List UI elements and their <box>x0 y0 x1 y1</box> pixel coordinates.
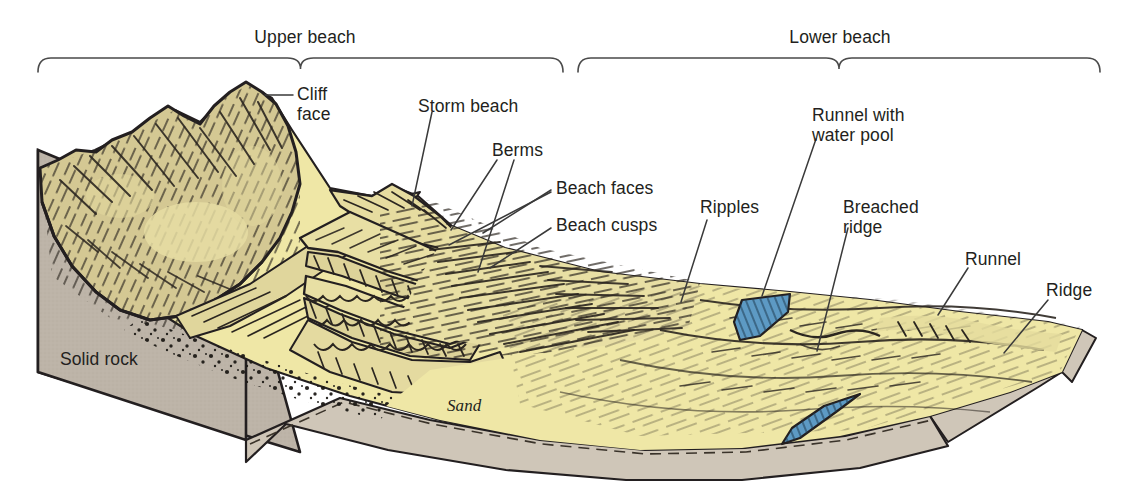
beach-faces-leader-a <box>483 190 551 233</box>
upper-beach-bracket <box>38 58 563 72</box>
scope-brackets <box>38 58 1100 72</box>
upper-beach-label: Upper beach <box>215 27 395 47</box>
sand-label: Sand <box>447 396 481 416</box>
ripples-label: Ripples <box>700 197 759 217</box>
runnel-label: Runnel <box>965 249 1021 269</box>
storm-beach-label: Storm beach <box>418 96 518 116</box>
cliff-face-label: Cliff face <box>297 84 330 124</box>
runnel-pool-leader <box>762 139 816 296</box>
lower-beach-label: Lower beach <box>750 27 930 47</box>
block-diagram-artwork <box>0 0 1130 502</box>
solid-rock-label: Solid rock <box>60 349 138 369</box>
storm-beach-leader <box>412 112 432 206</box>
breached-ridge-label: Breached ridge <box>843 197 919 237</box>
runnel-water-pool-label: Runnel with water pool <box>812 105 905 145</box>
ridge-label: Ridge <box>1046 280 1092 300</box>
beach-morphology-figure: Upper beachLower beachCliff faceStorm be… <box>0 0 1130 502</box>
lower-beach-bracket <box>578 58 1100 72</box>
berms-label: Berms <box>492 140 543 160</box>
beach-cusps-label: Beach cusps <box>556 215 657 235</box>
beach-faces-label: Beach faces <box>556 178 653 198</box>
